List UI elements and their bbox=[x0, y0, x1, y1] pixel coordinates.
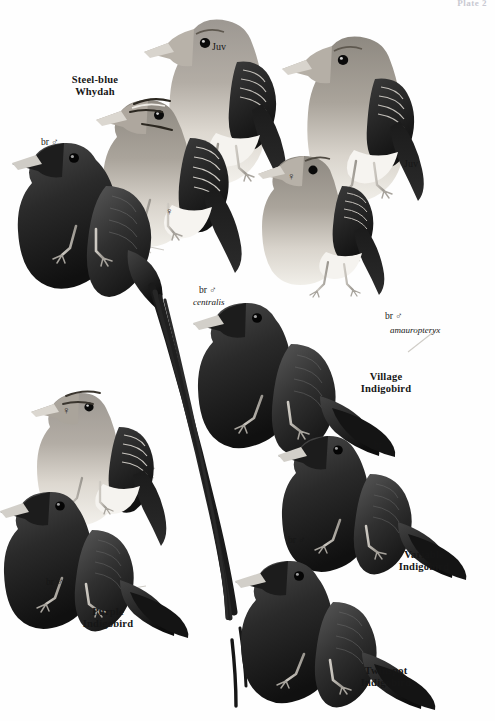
species-label-line1: Purple bbox=[62, 606, 154, 618]
species-label-line2: Indigobird bbox=[340, 383, 432, 395]
annotation-whydah-female-mid: ♀ bbox=[165, 205, 173, 217]
species-label-line1: Steel-blue bbox=[52, 74, 138, 86]
species-label-twinspot-indigobird: Twinspot Indigobird bbox=[340, 665, 432, 689]
annotation-whydah-juv-left: Juv bbox=[212, 41, 226, 52]
species-label-line1: Variable bbox=[378, 549, 470, 561]
annotation-whydah-br-male: br ♂ bbox=[41, 137, 58, 148]
annotation-variable-br-male: br ♂ bbox=[374, 440, 391, 451]
species-label-line2: Indigobird bbox=[378, 561, 470, 573]
species-label-village-indigobird: Village Indigobird bbox=[340, 371, 432, 395]
species-label-steel-blue-whydah: Steel-blue Whydah bbox=[52, 74, 138, 98]
annotation-whydah-juv-right: Juv bbox=[404, 158, 418, 169]
bird-plate-illustration: Plate 2 bbox=[0, 0, 495, 721]
species-label-line1: Village bbox=[340, 371, 432, 383]
annotation-village-amauropteryx-scientific: amauropteryx bbox=[390, 325, 440, 335]
species-label-line1: Twinspot bbox=[340, 665, 432, 677]
annotation-purple-br-male: br ♂ bbox=[46, 577, 63, 588]
species-label-line2: Indigobird bbox=[340, 677, 432, 689]
species-label-line2: Indigobird bbox=[62, 618, 154, 630]
species-label-line2: Whydah bbox=[52, 86, 138, 98]
annotation-whydah-female-right: ♀ bbox=[287, 170, 295, 182]
species-label-variable-indigobird: Variable Indigobird bbox=[378, 549, 470, 573]
species-label-purple-indigobird: Purple Indigobird bbox=[62, 606, 154, 630]
annotation-village-br-male-amauropteryx: br ♂ bbox=[385, 311, 402, 322]
annotation-twinspot-br-male: br ♂ bbox=[288, 535, 305, 546]
annotation-indigobird-female-left: ♀ bbox=[62, 404, 70, 416]
annotation-village-br-male-centralis: br ♂ bbox=[199, 285, 216, 296]
annotation-village-centralis-scientific: centralis bbox=[193, 297, 225, 307]
